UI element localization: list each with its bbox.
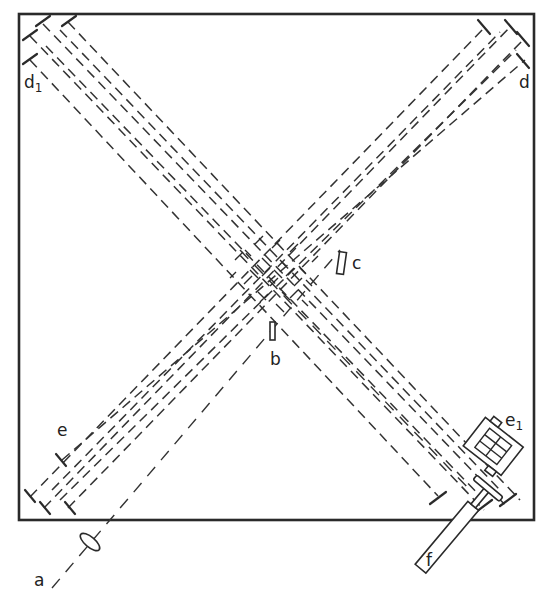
label-a: a bbox=[34, 572, 44, 589]
label-e: e bbox=[57, 422, 67, 439]
crossing-pattern bbox=[230, 236, 318, 312]
label-b: b bbox=[270, 351, 281, 368]
label-c: c bbox=[352, 255, 361, 272]
element-b bbox=[270, 322, 275, 340]
label-d: d bbox=[519, 74, 530, 91]
element-c bbox=[336, 252, 346, 275]
telescope-f bbox=[408, 475, 503, 580]
label-f: f bbox=[426, 552, 432, 569]
optical-diagram bbox=[0, 0, 559, 614]
label-d1: d1 bbox=[24, 74, 42, 94]
beams-descending bbox=[30, 22, 520, 510]
input-beam bbox=[52, 250, 340, 588]
label-e1: e1 bbox=[505, 412, 523, 432]
mirror-bank-d1 bbox=[23, 16, 76, 64]
